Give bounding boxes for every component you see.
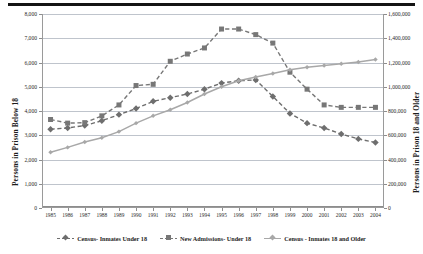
x-axis-tick-label: 2003: [353, 212, 364, 218]
y-axis-right-tick: [384, 184, 387, 185]
diamond-marker-icon: [264, 234, 281, 242]
y-axis-right-tick-label: 800,000: [388, 108, 423, 114]
x-axis-tick-label: 1992: [165, 212, 176, 218]
x-axis-tick-label: 1998: [267, 212, 278, 218]
x-axis-tick: [170, 208, 171, 211]
y-axis-left-tick: [39, 14, 42, 15]
x-axis-tick-label: 2001: [319, 212, 330, 218]
gridline: [43, 160, 383, 161]
y-axis-left-tick-label: 0: [3, 205, 37, 211]
plot-area: [42, 14, 384, 208]
x-axis-tick: [290, 208, 291, 211]
gridline: [43, 87, 383, 88]
x-axis-tick: [222, 208, 223, 211]
y-axis-right-tick-label: 600,000: [388, 132, 423, 138]
y-axis-left-tick: [39, 160, 42, 161]
gridline: [43, 111, 383, 112]
y-axis-right-tick-label: 1,000,000: [388, 84, 423, 90]
gridline: [43, 14, 383, 15]
x-axis-tick: [136, 208, 137, 211]
square-marker-icon: [160, 234, 177, 242]
x-axis-tick: [119, 208, 120, 211]
y-axis-left-tick-label: 8,000: [3, 11, 37, 17]
x-axis-tick-label: 1986: [62, 212, 73, 218]
x-axis-tick-label: 1987: [79, 212, 90, 218]
x-axis-tick: [307, 208, 308, 211]
x-axis-tick-label: 1994: [199, 212, 210, 218]
y-axis-left-tick: [39, 111, 42, 112]
y-axis-left-tick-label: 5,000: [3, 84, 37, 90]
x-axis-tick-label: 1996: [233, 212, 244, 218]
y-axis-right-tick-label: 0: [388, 205, 423, 211]
x-axis-tick-label: 2000: [302, 212, 313, 218]
legend-item-1[interactable]: Census- Inmates Under 18: [57, 234, 147, 242]
gridline: [43, 135, 383, 136]
x-axis-tick: [239, 208, 240, 211]
x-axis-tick-label: 1990: [131, 212, 142, 218]
x-axis-tick-label: 1997: [250, 212, 261, 218]
x-axis-tick-label: 1995: [216, 212, 227, 218]
y-axis-right-tick-label: 1,400,000: [388, 35, 423, 41]
legend-item-3[interactable]: Census - Inmates 18 and Older: [264, 234, 366, 242]
legend-item-2[interactable]: New Admissions- Under 18: [160, 234, 251, 242]
x-axis-tick: [204, 208, 205, 211]
x-axis-tick-label: 1988: [96, 212, 107, 218]
x-axis-tick: [85, 208, 86, 211]
x-axis-tick-label: 2004: [370, 212, 381, 218]
y-axis-right-tick: [384, 63, 387, 64]
y-axis-right-tick-label: 1,600,000: [388, 11, 423, 17]
x-axis-tick: [51, 208, 52, 211]
y-axis-left-tick: [39, 87, 42, 88]
y-axis-right-tick: [384, 14, 387, 15]
y-axis-left-tick-label: 6,000: [3, 60, 37, 66]
x-axis-tick: [153, 208, 154, 211]
y-axis-left-tick: [39, 208, 42, 209]
gridline: [43, 184, 383, 185]
y-axis-left-tick: [39, 135, 42, 136]
x-axis-line: [43, 206, 383, 207]
x-axis-tick: [273, 208, 274, 211]
x-axis-tick: [187, 208, 188, 211]
x-axis-tick-label: 1993: [182, 212, 193, 218]
x-axis-tick-label: 1989: [114, 212, 125, 218]
y-axis-left-tick: [39, 63, 42, 64]
diamond-marker-icon: [57, 234, 74, 242]
y-axis-left-tick: [39, 38, 42, 39]
x-axis-tick: [324, 208, 325, 211]
x-axis-tick: [341, 208, 342, 211]
x-axis-tick: [102, 208, 103, 211]
y-axis-right-tick: [384, 160, 387, 161]
gridline: [43, 38, 383, 39]
x-axis-tick-label: 1985: [45, 212, 56, 218]
y-axis-right-tick: [384, 208, 387, 209]
y-axis-right-title: Persons in Prison 18 and Older: [412, 92, 421, 193]
page-divider-rule: [8, 3, 415, 6]
y-axis-left-tick-label: 7,000: [3, 35, 37, 41]
y-axis-left-tick: [39, 184, 42, 185]
y-axis-right-tick: [384, 135, 387, 136]
gridline: [43, 63, 383, 64]
x-axis-tick: [375, 208, 376, 211]
y-axis-left-tick-label: 2,000: [3, 157, 37, 163]
y-axis-left-tick-label: 3,000: [3, 132, 37, 138]
y-axis-left-tick-label: 4,000: [3, 108, 37, 114]
legend-item-label: Census - Inmates 18 and Older: [284, 235, 366, 242]
legend-item-label: Census- Inmates Under 18: [77, 235, 147, 242]
y-axis-right-tick: [384, 111, 387, 112]
x-axis-tick-label: 1991: [148, 212, 159, 218]
x-axis-tick: [256, 208, 257, 211]
y-axis-right-tick-label: 400,000: [388, 157, 423, 163]
legend-item-label: New Admissions- Under 18: [180, 235, 251, 242]
y-axis-right-tick-label: 1,200,000: [388, 60, 423, 66]
x-axis-tick-label: 2002: [336, 212, 347, 218]
x-axis-tick: [358, 208, 359, 211]
x-axis-tick-label: 1999: [285, 212, 296, 218]
y-axis-right-tick-label: 200,000: [388, 181, 423, 187]
chart-legend: Census- Inmates Under 18New Admissions- …: [0, 234, 423, 242]
chart-page: Persons in Prison Below 18 Persons in Pr…: [0, 0, 423, 254]
y-axis-left-tick-label: 1,000: [3, 181, 37, 187]
x-axis-tick: [68, 208, 69, 211]
y-axis-right-tick: [384, 38, 387, 39]
y-axis-right-tick: [384, 87, 387, 88]
